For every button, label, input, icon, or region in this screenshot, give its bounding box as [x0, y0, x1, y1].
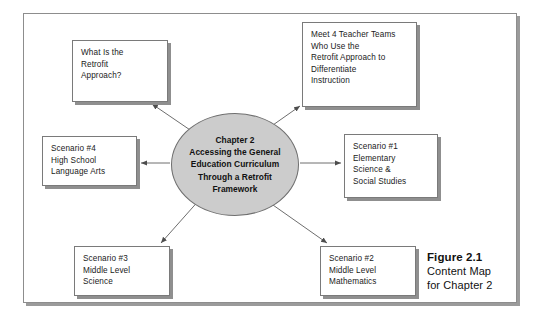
center-node-chapter-2[interactable]: Chapter 2 Accessing the General Educatio…	[171, 113, 299, 216]
figure-page: What Is the Retrofit Approach? Meet 4 Te…	[0, 0, 544, 323]
node-what-is-retrofit[interactable]: What Is the Retrofit Approach?	[72, 40, 168, 102]
node-scenario-2[interactable]: Scenario #2 Middle Level Mathematics	[320, 246, 416, 296]
node-scenario-4[interactable]: Scenario #4 High School Language Arts	[42, 136, 137, 186]
node-meet-teachers[interactable]: Meet 4 Teacher Teams Who Use the Retrofi…	[302, 22, 417, 107]
node-scenario-3[interactable]: Scenario #3 Middle Level Science	[74, 246, 170, 296]
node-scenario-1[interactable]: Scenario #1 Elementary Science & Social …	[344, 134, 438, 198]
figure-caption-title: Figure 2.1	[427, 250, 512, 264]
figure-caption-body: Content Map for Chapter 2	[427, 264, 512, 292]
figure-caption: Figure 2.1 Content Map for Chapter 2	[427, 250, 512, 292]
